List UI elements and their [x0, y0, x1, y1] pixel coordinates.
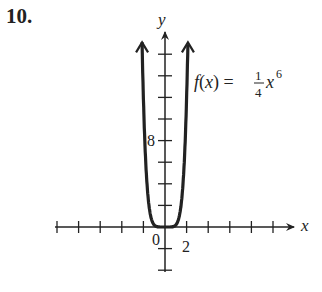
svg-text:6: 6: [276, 67, 282, 81]
svg-text:x: x: [265, 72, 274, 92]
svg-text:f(x) =: f(x) =: [194, 72, 234, 93]
x-tick-label-2: 2: [182, 238, 190, 255]
origin-label: 0: [152, 231, 160, 248]
x-axis-label: x: [300, 216, 309, 235]
function-label: f(x) = 1 4 x 6: [194, 67, 282, 100]
y-axis-label: y: [156, 10, 166, 29]
svg-text:1: 1: [255, 68, 262, 83]
graph: x y 0 2 8 f(x) = 1 4 x 6: [0, 0, 322, 292]
y-axis: [158, 32, 172, 272]
svg-text:4: 4: [255, 85, 262, 100]
y-tick-label-8: 8: [147, 132, 155, 149]
